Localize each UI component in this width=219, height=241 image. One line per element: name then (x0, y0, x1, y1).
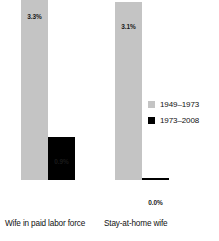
category-label-wife-in-paid-labor-force: Wife in paid labor force (5, 219, 85, 228)
bar-chart: 3.3% 0.9% 3.1% 0.0% Wife in paid labor f… (0, 0, 219, 241)
legend-swatch-black-icon (148, 117, 155, 124)
bar-stay-at-home-wife-1973-2008[interactable] (142, 178, 169, 180)
legend-label-1949-1973: 1949–1973 (160, 100, 199, 109)
bar-value-label-wife-in-paid-labor-force-1949-1973: 3.3% (18, 13, 51, 20)
legend: 1949–1973 1973–2008 (148, 100, 199, 125)
legend-item-1973-2008[interactable]: 1973–2008 (148, 116, 199, 125)
bar-value-label-stay-at-home-wife-1949-1973: 3.1% (112, 23, 145, 30)
bar-value-label-wife-in-paid-labor-force-1973-2008: 0.9% (45, 158, 78, 165)
bar-value-label-stay-at-home-wife-1973-2008: 0.0% (139, 199, 172, 206)
bar-wife-in-paid-labor-force-1949-1973[interactable] (21, 0, 48, 180)
legend-swatch-gray-icon (148, 101, 155, 108)
category-label-stay-at-home-wife: Stay-at-home wife (104, 219, 167, 228)
legend-label-1973-2008: 1973–2008 (160, 116, 199, 125)
legend-item-1949-1973[interactable]: 1949–1973 (148, 100, 199, 109)
